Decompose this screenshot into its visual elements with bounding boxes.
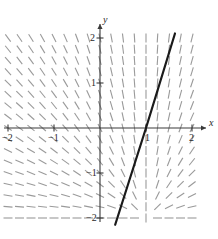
- y-axis-label: y: [103, 15, 107, 25]
- ytick-label-2: 2: [90, 33, 95, 43]
- axes: [4, 24, 206, 222]
- ytick-label-1: 1: [91, 78, 96, 88]
- xtick-label--2: −2: [2, 133, 13, 143]
- xtick-label-1: 1: [145, 133, 150, 143]
- x-axis-label: x: [209, 118, 213, 128]
- solution-curve: [115, 34, 175, 225]
- ytick-label--1: −1: [86, 168, 97, 178]
- ytick-label--2: −2: [86, 213, 97, 223]
- xtick-label--1: −1: [48, 133, 59, 143]
- slope-field-figure: −2 −1 1 2 2 1 −1 −2 x y: [0, 0, 218, 239]
- plot-canvas: [0, 0, 218, 239]
- xtick-label-2: 2: [189, 133, 194, 143]
